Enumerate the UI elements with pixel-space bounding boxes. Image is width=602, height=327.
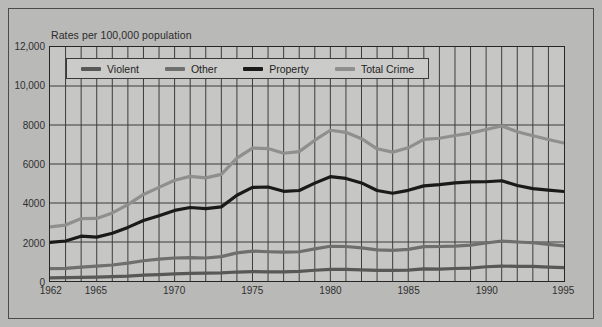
x-axis-tick-label: 1995: [552, 285, 574, 296]
y-axis-tick-labels: 0200040006000800010,00012,000: [0, 46, 45, 282]
chart-title: Rates per 100,000 population: [51, 29, 192, 41]
y-axis-tick-label: 2000: [23, 237, 45, 248]
y-axis-tick-label: 8000: [23, 119, 45, 130]
x-axis-tick-label: 1985: [398, 285, 420, 296]
legend-item-other: Other: [165, 63, 217, 75]
series-line-other: [50, 241, 564, 269]
x-axis-tick-label: 1962: [40, 285, 62, 296]
y-axis-tick-label: 12,000: [14, 41, 45, 52]
series-line-total-crime: [50, 126, 564, 227]
x-axis-tick-labels: 19621965197019751980198519901995: [49, 285, 565, 301]
legend-swatch-icon: [81, 67, 101, 71]
legend-item-violent: Violent: [81, 63, 139, 75]
legend-swatch-icon: [243, 67, 263, 71]
legend-label: Property: [269, 63, 309, 75]
series-line-property: [50, 177, 564, 243]
x-axis-tick-label: 1980: [319, 285, 341, 296]
x-axis-tick-label: 1975: [241, 285, 263, 296]
legend-swatch-icon: [335, 67, 355, 71]
x-axis-tick-label: 1970: [163, 285, 185, 296]
legend-label: Total Crime: [361, 63, 414, 75]
legend-label: Other: [191, 63, 217, 75]
y-axis-tick-label: 6000: [23, 159, 45, 170]
x-axis-tick-label: 1990: [476, 285, 498, 296]
plot-area: [49, 46, 565, 282]
series-lines: [50, 126, 564, 278]
horizontal-gridlines: [50, 86, 564, 242]
legend-item-total-crime: Total Crime: [335, 63, 414, 75]
x-axis-tick-label: 1965: [85, 285, 107, 296]
legend-swatch-icon: [165, 67, 185, 71]
series-line-violent: [50, 266, 564, 278]
y-axis-tick-label: 4000: [23, 198, 45, 209]
legend-label: Violent: [107, 63, 139, 75]
plot-svg: [50, 47, 564, 281]
y-axis-tick-label: 10,000: [14, 80, 45, 91]
figure-root: Rates per 100,000 population 02000400060…: [0, 0, 602, 327]
legend-item-property: Property: [243, 63, 309, 75]
chart-legend: ViolentOtherPropertyTotal Crime: [66, 58, 429, 79]
